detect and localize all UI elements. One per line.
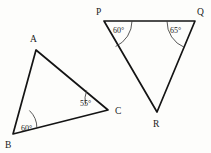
vertex-label-c: C [115, 106, 121, 116]
angle-label-c: 55° [80, 99, 91, 108]
vertex-label-p: P [96, 7, 101, 17]
vertex-label-q: Q [197, 7, 204, 17]
figure-canvas: A B C 60° 55° P Q R 60° 65° [0, 0, 211, 153]
vertex-label-r: R [153, 119, 160, 129]
angle-label-b: 60° [21, 124, 32, 133]
triangle-pqr: P Q R 60° 65° [96, 7, 204, 129]
angle-label-q: 65° [170, 26, 181, 35]
triangle-abc: A B C 60° 55° [5, 34, 121, 150]
vertex-label-a: A [30, 34, 37, 44]
geometry-figure: A B C 60° 55° P Q R 60° 65° [0, 0, 211, 153]
triangle-abc-outline [13, 50, 108, 134]
vertex-label-b: B [5, 140, 11, 150]
angle-label-p: 60° [113, 26, 124, 35]
